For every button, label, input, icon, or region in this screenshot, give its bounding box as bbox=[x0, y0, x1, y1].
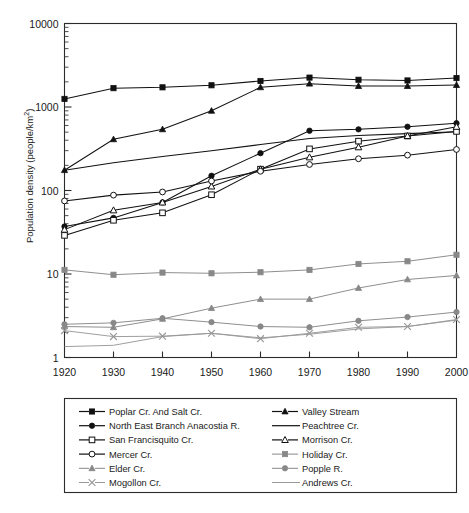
x-axis-tick-label: 1960 bbox=[249, 366, 273, 378]
data-point-marker bbox=[160, 85, 165, 90]
data-point-marker bbox=[160, 189, 166, 195]
x-axis-tick-label: 1970 bbox=[298, 366, 322, 378]
data-point-marker bbox=[307, 128, 312, 133]
legend-label: San Francisquito Cr. bbox=[109, 435, 193, 445]
data-point-marker bbox=[209, 319, 214, 324]
chart-svg: 1000010001001011920193019401950196019701… bbox=[0, 0, 469, 513]
data-point-marker bbox=[258, 324, 263, 329]
data-point-marker bbox=[454, 75, 459, 80]
x-axis-tick-label: 1930 bbox=[102, 366, 126, 378]
data-point-marker bbox=[62, 198, 68, 204]
data-point-marker bbox=[209, 83, 214, 88]
x-axis-tick-label: 1950 bbox=[200, 366, 224, 378]
y-axis-title: Population density (people/km2) bbox=[23, 109, 35, 243]
data-point-marker bbox=[258, 270, 263, 275]
data-point-marker bbox=[307, 162, 313, 168]
data-point-marker bbox=[62, 267, 67, 272]
data-point-marker bbox=[111, 192, 117, 198]
data-point-marker bbox=[111, 217, 117, 223]
data-point-marker bbox=[356, 77, 361, 82]
data-point-marker bbox=[356, 156, 362, 162]
data-point-marker bbox=[89, 423, 94, 428]
y-axis-tick-label: 100 bbox=[41, 185, 59, 197]
y-axis-tick-label: 1000 bbox=[35, 101, 59, 113]
data-point-marker bbox=[405, 259, 410, 264]
data-point-marker bbox=[62, 96, 67, 101]
legend-label: Mogollon Cr. bbox=[109, 478, 161, 488]
legend-label: Holiday Cr. bbox=[302, 450, 347, 460]
data-point-marker bbox=[209, 271, 214, 276]
plot-frame bbox=[65, 24, 457, 358]
population-density-chart: 1000010001001011920193019401950196019701… bbox=[0, 0, 469, 513]
x-axis-tick-label: 1990 bbox=[396, 366, 420, 378]
data-point-marker bbox=[307, 325, 312, 330]
x-axis-tick-label: 1940 bbox=[151, 366, 175, 378]
legend-label: Morrison Cr. bbox=[302, 435, 353, 445]
legend-label: North East Branch Anacostia R. bbox=[109, 421, 240, 431]
data-point-marker bbox=[405, 314, 410, 319]
data-point-marker bbox=[209, 192, 215, 198]
plot-area: 1000010001001011920193019401950196019701… bbox=[23, 18, 468, 378]
data-point-marker bbox=[111, 320, 116, 325]
data-point-marker bbox=[89, 437, 95, 443]
chart-series bbox=[61, 81, 459, 173]
data-point-marker bbox=[282, 452, 287, 457]
data-point-marker bbox=[89, 451, 95, 457]
data-point-marker bbox=[454, 309, 459, 314]
data-point-marker bbox=[454, 147, 460, 153]
legend-label: Elder Cr. bbox=[109, 464, 145, 474]
data-point-marker bbox=[111, 86, 116, 91]
data-point-marker bbox=[62, 322, 67, 327]
legend-label: Peachtree Cr. bbox=[302, 421, 359, 431]
data-point-marker bbox=[454, 252, 459, 257]
data-point-marker bbox=[307, 146, 313, 152]
legend-label: Mercer Cr. bbox=[109, 450, 152, 460]
data-point-marker bbox=[356, 261, 361, 266]
y-axis-tick-label: 10 bbox=[47, 268, 59, 280]
data-point-marker bbox=[307, 267, 312, 272]
x-axis-tick-label: 1980 bbox=[347, 366, 371, 378]
y-axis-tick-label: 1 bbox=[53, 352, 59, 364]
data-point-marker bbox=[209, 178, 215, 184]
series-line bbox=[65, 127, 457, 230]
x-axis-tick-label: 1920 bbox=[53, 366, 77, 378]
data-point-marker bbox=[307, 75, 312, 80]
x-axis-tick-label: 2000 bbox=[445, 366, 469, 378]
data-point-marker bbox=[282, 466, 287, 471]
series-line bbox=[65, 131, 457, 235]
data-point-marker bbox=[160, 210, 166, 216]
legend-label: Andrews Cr. bbox=[302, 478, 353, 488]
data-point-marker bbox=[453, 272, 459, 278]
chart-series bbox=[62, 252, 459, 277]
data-point-marker bbox=[405, 152, 411, 158]
data-point-marker bbox=[62, 233, 68, 239]
legend-label: Poplar Cr. And Salt Cr. bbox=[109, 407, 202, 417]
data-point-marker bbox=[258, 168, 264, 174]
chart-legend: Poplar Cr. And Salt Cr.North East Branch… bbox=[65, 399, 457, 493]
data-point-marker bbox=[356, 127, 361, 132]
y-axis-tick-label: 10000 bbox=[29, 18, 58, 30]
data-point-marker bbox=[111, 272, 116, 277]
data-point-marker bbox=[160, 270, 165, 275]
data-point-marker bbox=[160, 316, 165, 321]
data-point-marker bbox=[89, 409, 94, 414]
data-point-marker bbox=[258, 150, 263, 155]
data-point-marker bbox=[356, 318, 361, 323]
legend-label: Valley Stream bbox=[302, 407, 359, 417]
data-point-marker bbox=[405, 124, 410, 129]
data-point-marker bbox=[208, 108, 214, 114]
chart-series bbox=[61, 272, 459, 329]
series-line bbox=[65, 149, 457, 200]
legend-label: Popple R. bbox=[302, 464, 343, 474]
data-point-marker bbox=[258, 78, 263, 83]
